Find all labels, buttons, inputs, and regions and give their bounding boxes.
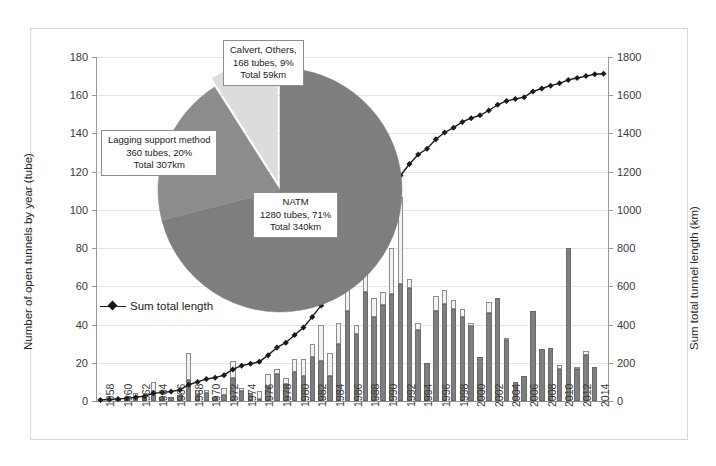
y-axis-right-label: 1800 <box>617 52 657 62</box>
y-axis-left-label: 180 <box>48 52 88 62</box>
line-marker-diamond <box>583 73 589 79</box>
x-axis-label: 1978 <box>281 384 293 407</box>
chart-canvas: 020406080100120140160180 020040060080010… <box>0 0 716 466</box>
y-tick-right <box>609 57 613 58</box>
callout-lagging-line3: Total 307km <box>108 159 210 172</box>
x-axis-label: 2010 <box>563 384 575 407</box>
line-marker-diamond <box>212 375 218 381</box>
y-axis-right-label: 600 <box>617 281 657 291</box>
line-marker-diamond <box>556 80 562 86</box>
line-marker-diamond <box>548 83 554 89</box>
y-tick-right <box>609 210 613 211</box>
callout-natm-line1: NATM <box>260 196 331 209</box>
y-axis-left-label: 100 <box>48 205 88 215</box>
y-axis-right-label: 1600 <box>617 90 657 100</box>
callout-others-line3: Total 59km <box>230 69 297 82</box>
x-axis-label: 1990 <box>387 384 399 407</box>
line-marker-diamond <box>512 96 518 102</box>
y-axis-left-label: 120 <box>48 167 88 177</box>
callout-others-line2: 168 tubes, 9% <box>230 57 297 70</box>
y-tick-right <box>609 286 613 287</box>
y-axis-right-line <box>608 57 609 402</box>
callout-natm: NATM 1280 tubes, 71% Total 340km <box>253 192 338 238</box>
y-tick-right <box>609 363 613 364</box>
x-axis-label: 1996 <box>440 384 452 407</box>
callout-lagging-line2: 360 tubes, 20% <box>108 147 210 160</box>
callout-natm-line2: 1280 tubes, 71% <box>260 209 331 222</box>
line-marker-diamond <box>477 112 483 118</box>
callout-lagging-line1: Lagging support method <box>108 134 210 147</box>
line-marker-diamond <box>539 86 545 92</box>
callout-others-line1: Calvert, Others, <box>230 44 297 57</box>
legend-line-marker-icon <box>100 301 126 311</box>
y-axis-left-label: 80 <box>48 243 88 253</box>
x-axis-label: 1960 <box>122 384 134 407</box>
y-axis-right-label: 1200 <box>617 167 657 177</box>
line-marker-diamond <box>565 77 571 83</box>
pie-chart <box>150 62 410 317</box>
x-axis-label: 1958 <box>104 384 116 407</box>
callout-calvert-others: Calvert, Others, 168 tubes, 9% Total 59k… <box>223 40 304 86</box>
x-axis-label: 1976 <box>263 384 275 407</box>
y-axis-right-label: 400 <box>617 320 657 330</box>
x-axis-label: 1986 <box>352 384 364 407</box>
y-axis-left-title: Number of open tunnels by year (tube) <box>22 153 34 350</box>
x-axis-label: 1980 <box>299 384 311 407</box>
y-axis-right-label: 1000 <box>617 205 657 215</box>
y-axis-right-label: 200 <box>617 358 657 368</box>
x-axis-label: 1992 <box>405 384 417 407</box>
x-axis-label: 1988 <box>369 384 381 407</box>
y-axis-left-label: 20 <box>48 358 88 368</box>
y-axis-left-label: 40 <box>48 320 88 330</box>
x-axis-label: 1964 <box>157 384 169 407</box>
x-axis-label: 1998 <box>458 384 470 407</box>
line-marker-diamond <box>247 361 253 367</box>
x-axis-label: 1970 <box>210 384 222 407</box>
line-marker-diamond <box>601 71 607 77</box>
x-axis-label: 1982 <box>316 384 328 407</box>
x-axis-label: 2014 <box>599 384 611 407</box>
line-marker-diamond <box>592 71 598 77</box>
x-axis-label: 1968 <box>193 384 205 407</box>
line-marker-diamond <box>503 98 509 104</box>
x-axis-label: 1974 <box>246 384 258 407</box>
x-axis-label: 1972 <box>228 384 240 407</box>
x-axis-label: 2004 <box>510 384 522 407</box>
callout-natm-line3: Total 340km <box>260 221 331 234</box>
y-tick-right <box>609 248 613 249</box>
x-axis-label: 2002 <box>493 384 505 407</box>
y-axis-left-label: 0 <box>48 396 88 406</box>
x-axis-label: 2000 <box>475 384 487 407</box>
line-marker-diamond <box>468 115 474 121</box>
line-marker-diamond <box>239 363 245 369</box>
line-marker-diamond <box>574 75 580 81</box>
y-axis-right-label: 800 <box>617 243 657 253</box>
x-axis-label: 1962 <box>140 384 152 407</box>
y-axis-left-label: 160 <box>48 90 88 100</box>
y-tick-right <box>609 172 613 173</box>
x-axis-label: 2012 <box>581 384 593 407</box>
y-axis-right-label: 1400 <box>617 128 657 138</box>
y-tick-right <box>609 133 613 134</box>
callout-lagging-support-method: Lagging support method 360 tubes, 20% To… <box>101 130 217 176</box>
x-axis-label: 1966 <box>175 384 187 407</box>
y-axis-right-title: Sum total tunnel length (km) <box>688 206 700 350</box>
y-axis-right-label: 0 <box>617 396 657 406</box>
x-axis-label: 2008 <box>546 384 558 407</box>
x-axis-label: 1994 <box>422 384 434 407</box>
y-axis-left-label: 140 <box>48 128 88 138</box>
y-tick-right <box>609 95 613 96</box>
line-marker-diamond <box>203 376 209 382</box>
x-axis-label: 1984 <box>334 384 346 407</box>
y-tick-right <box>609 325 613 326</box>
x-axis-label: 2006 <box>528 384 540 407</box>
y-axis-left-label: 60 <box>48 281 88 291</box>
